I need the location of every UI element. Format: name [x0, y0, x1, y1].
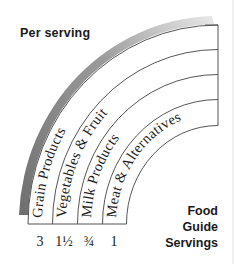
- serving-vegetables: 1½: [55, 234, 73, 250]
- food-guide-servings-label: Food Guide Servings: [165, 203, 218, 251]
- serving-meat: 1: [111, 234, 118, 250]
- fgs-line-3: Servings: [165, 235, 218, 251]
- serving-grain: 3: [37, 234, 44, 250]
- fgs-line-1: Food: [165, 203, 218, 219]
- fgs-line-2: Guide: [165, 219, 218, 235]
- band-label-meat: Meat & Alternatives: [103, 108, 183, 218]
- serving-milk: ¾: [84, 234, 95, 250]
